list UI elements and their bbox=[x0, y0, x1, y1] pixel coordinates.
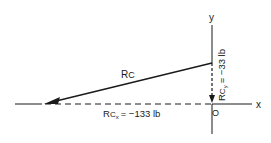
resultant-vector-line bbox=[52, 63, 212, 102]
x-component-value: = −133 lb bbox=[121, 108, 161, 119]
resultant-arrowhead-icon bbox=[44, 97, 60, 104]
x-component-label-subsub: x bbox=[116, 114, 119, 120]
x-component-label: RCx= −133 lb bbox=[103, 108, 160, 120]
y-component-label: RCy= −33 lb bbox=[216, 49, 228, 101]
y-component-label-subsub: y bbox=[222, 85, 228, 88]
origin-label: O bbox=[212, 108, 219, 118]
resultant-label-sub: C bbox=[128, 70, 135, 80]
resultant-label: RC bbox=[121, 69, 135, 80]
y-component-value: = −33 lb bbox=[216, 49, 227, 83]
y-axis-label: y bbox=[209, 12, 214, 23]
resultant-label-main: R bbox=[121, 69, 128, 80]
y-component-arrowhead-icon bbox=[209, 95, 215, 103]
x-axis-label: x bbox=[256, 99, 261, 110]
force-diagram: y x O RC RCx= −133 lb RCy= −33 lb bbox=[0, 0, 271, 143]
